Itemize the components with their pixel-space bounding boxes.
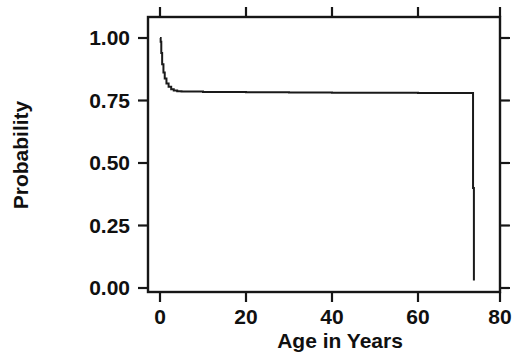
y-tick-label-1: 1.00: [89, 26, 130, 49]
x-tick-label-1: 0: [154, 305, 166, 328]
x-axis-title: Age in Years: [277, 329, 403, 352]
chart-screenshot: 1.00 0.75 0.50 0.25 0.00 0 20 40 60 80 A…: [0, 0, 530, 353]
survival-curve-chart: 1.00 0.75 0.50 0.25 0.00 0 20 40 60 80 A…: [0, 0, 530, 353]
y-tick-label-4: 0.25: [89, 214, 130, 237]
y-axis-title: Probability: [9, 100, 32, 209]
x-tick-label-3: 40: [320, 305, 343, 328]
y-tick-label-3: 0.50: [89, 151, 130, 174]
y-tick-label-2: 0.75: [89, 89, 130, 112]
x-tick-label-5: 80: [488, 305, 511, 328]
x-tick-label-4: 60: [406, 305, 429, 328]
chart-background: [0, 0, 530, 353]
y-tick-label-5: 0.00: [89, 276, 130, 299]
x-tick-label-2: 20: [234, 305, 257, 328]
